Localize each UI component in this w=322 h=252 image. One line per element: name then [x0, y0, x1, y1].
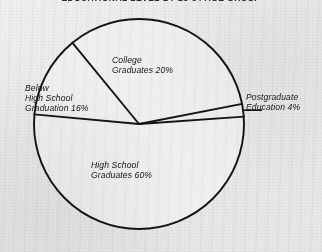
slice-label-postgraduate: Postgraduate Education 4%: [246, 92, 300, 112]
slice-label-below-high-school: Below High School Graduation 16%: [25, 83, 89, 114]
slice-label-college: College Graduates 20%: [112, 55, 173, 75]
slice-label-below-line3: Graduation 16%: [25, 103, 89, 113]
slice-label-high-school: High School Graduates 60%: [91, 160, 152, 180]
slice-label-college-line1: College: [112, 55, 173, 65]
scanned-page: EDUCATIONAL LEVEL BY 25-34 AGE GROUP Col…: [0, 0, 322, 252]
slice-label-below-line1: Below: [25, 83, 89, 93]
pie-chart: [0, 0, 322, 252]
slice-label-postgraduate-line1: Postgraduate: [246, 92, 300, 102]
slice-label-below-line2: High School: [25, 93, 89, 103]
slice-label-college-line2: Graduates 20%: [112, 65, 173, 75]
slice-label-postgraduate-line2: Education 4%: [246, 102, 300, 112]
slice-label-high-school-line1: High School: [91, 160, 152, 170]
slice-label-high-school-line2: Graduates 60%: [91, 170, 152, 180]
